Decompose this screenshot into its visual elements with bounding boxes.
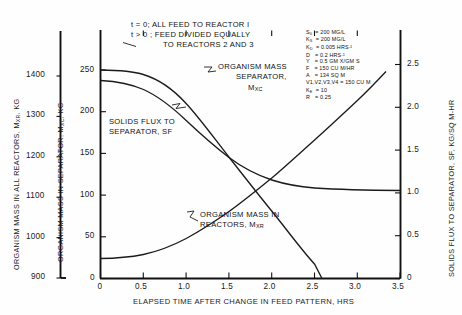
chart-figure: ORGANISM MASS IN ALL REACTORS, MXR, KG 9…	[0, 0, 462, 315]
annotation-sf-line2: SEPARATOR, SF	[109, 127, 172, 137]
param-f: F = 150 CU M/HR	[306, 65, 355, 72]
tick-left-outer-1300: 1300	[26, 110, 45, 119]
tick-x-2-0: 2.0	[264, 282, 276, 291]
tick-left-inner-150: 150	[80, 148, 94, 157]
annotation-condition-line3: TO REACTORS 2 AND 3	[163, 40, 254, 50]
axis-title-right: SOLIDS FLUX TO SEPARATOR, SF, KG/SQ M-HR	[447, 100, 456, 277]
curve-organism-mass-separator	[101, 70, 323, 279]
tick-x-3-0: 3.0	[349, 282, 361, 291]
tick-right-1-0: 1.0	[407, 187, 419, 196]
tick-left-outer-1200: 1200	[26, 151, 45, 160]
tick-x-1-0: 1.0	[178, 282, 190, 291]
tick-left-inner-100: 100	[80, 190, 94, 199]
leader-line-mxr	[187, 211, 198, 221]
axis-title-left-inner: ORGANISM MASS IN SEPARATOR, MXC, KG	[56, 102, 65, 262]
annotation-mxr-line1: ORGANISM MASS IN	[200, 210, 279, 220]
annotation-condition-line1: t = 0; ALL FEED TO REACTOR I	[131, 20, 249, 30]
tick-x-0-5: 0.5	[135, 282, 147, 291]
tick-x-0: 0	[98, 282, 103, 291]
leader-line-sf	[172, 104, 186, 109]
param-volumes: V1,V2,V3,V4 = 150 CU M	[306, 79, 371, 86]
tick-left-outer-1100: 1100	[26, 191, 44, 200]
tick-right-2-5: 2.5	[407, 59, 419, 68]
tick-left-inner-200: 200	[80, 106, 94, 115]
axis-title-x: ELAPSED TIME AFTER CHANGE IN FEED PATTER…	[133, 297, 354, 306]
tick-left-inner-0: 0	[90, 273, 95, 282]
tick-right-0-5: 0.5	[407, 230, 419, 239]
axis-title-left-outer: ORGANISM MASS IN ALL REACTORS, MXR, KG	[12, 99, 21, 270]
annotation-mxc-symbol: MXC	[248, 83, 263, 94]
leader-line-mxc	[204, 67, 216, 72]
annotation-mxc-line1: ORGANISM MASS	[218, 62, 287, 72]
tick-left-outer-1000: 1000	[26, 232, 45, 241]
param-a: A = 134 SQ M	[306, 72, 345, 79]
annotation-sf-line1: SOLIDS FLUX TO	[109, 117, 175, 127]
tick-right-2-0: 2.0	[407, 102, 419, 111]
param-r: R = 0.25	[306, 94, 331, 101]
tick-x-1-5: 1.5	[221, 282, 233, 291]
annotation-mxc-line2: SEPARATOR,	[236, 72, 287, 82]
tick-right-0: 0	[407, 273, 412, 282]
leader-line-condition	[123, 43, 136, 47]
tick-right-1-5: 1.5	[407, 145, 419, 154]
tick-left-inner-250: 250	[80, 65, 94, 74]
tick-x-3-5: 3.5	[392, 282, 404, 291]
param-y: Y = 0.5 GM X/GM S	[306, 58, 360, 65]
tick-left-inner-50: 50	[85, 231, 95, 240]
annotation-condition-line2: t > 0 ; FEED DIVIDED EQUALLY	[131, 30, 250, 40]
tick-left-outer-1400: 1400	[26, 70, 45, 79]
tick-left-outer-900: 900	[31, 272, 45, 281]
tick-x-2-5: 2.5	[307, 282, 319, 291]
annotation-mxr-line2: REACTORS, MXR	[200, 220, 264, 231]
